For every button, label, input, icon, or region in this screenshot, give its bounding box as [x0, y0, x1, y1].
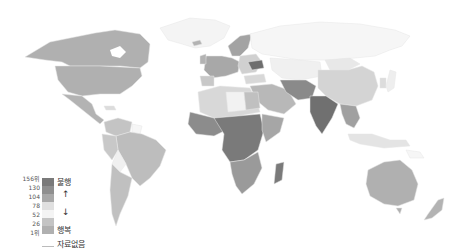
- region-canada: [25, 30, 150, 68]
- region-iberia: [200, 76, 214, 86]
- region-southeast-asia: [340, 104, 360, 128]
- region-korea: [380, 78, 386, 88]
- legend-color-bar: [42, 178, 54, 234]
- legend: 156위 130 104 78 52 26 1위 불행 ↑ ↓ 행복 자료없음: [2, 178, 92, 248]
- legend-swatch-27-52: [42, 210, 54, 218]
- region-russia: [250, 22, 410, 60]
- legend-tick-52: 52: [32, 211, 40, 218]
- legend-tick-78: 78: [32, 202, 40, 209]
- region-mexico: [62, 94, 104, 124]
- legend-tick-1: 1위: [30, 229, 40, 236]
- legend-swatch-14-26: [42, 218, 54, 226]
- region-egypt: [244, 92, 260, 110]
- region-tasmania: [396, 208, 402, 214]
- region-uk: [200, 54, 206, 64]
- region-western-europe: [204, 56, 240, 78]
- region-caribbean: [104, 106, 116, 110]
- region-libya: [226, 92, 246, 112]
- region-east-africa: [262, 114, 284, 142]
- legend-happy-label: 행복: [57, 224, 71, 235]
- legend-tick-156: 156위: [23, 175, 40, 182]
- region-new-zealand: [424, 198, 444, 220]
- world-happiness-map: 156위 130 104 78 52 26 1위 불행 ↑ ↓ 행복 자료없음: [0, 0, 463, 252]
- legend-tick-26: 26: [32, 220, 40, 227]
- region-turkey: [244, 74, 266, 84]
- legend-swatch-1-13: [42, 226, 54, 234]
- region-usa: [55, 66, 142, 96]
- region-argentina-chile: [110, 164, 132, 226]
- region-scandinavia: [228, 34, 252, 56]
- legend-no-data-swatch: [42, 240, 54, 247]
- legend-swatch-131-156: [42, 178, 54, 186]
- legend-swatch-79-104: [42, 194, 54, 202]
- region-indonesia: [348, 134, 410, 148]
- legend-swatch-105-130: [42, 186, 54, 194]
- region-papua-new-guinea: [406, 150, 424, 158]
- region-japan: [386, 70, 396, 92]
- region-central-asia: [270, 58, 322, 80]
- legend-swatch-53-78: [42, 202, 54, 210]
- arrow-up-icon: ↑: [62, 190, 70, 199]
- arrow-down-icon: ↓: [62, 208, 70, 217]
- legend-tick-130: 130: [29, 184, 40, 191]
- region-australia: [366, 160, 418, 206]
- legend-no-data-label: 자료없음: [57, 238, 85, 249]
- region-madagascar: [274, 162, 284, 184]
- region-india: [310, 96, 338, 134]
- legend-tick-104: 104: [29, 193, 40, 200]
- legend-unhappy-label: 불행: [57, 176, 71, 187]
